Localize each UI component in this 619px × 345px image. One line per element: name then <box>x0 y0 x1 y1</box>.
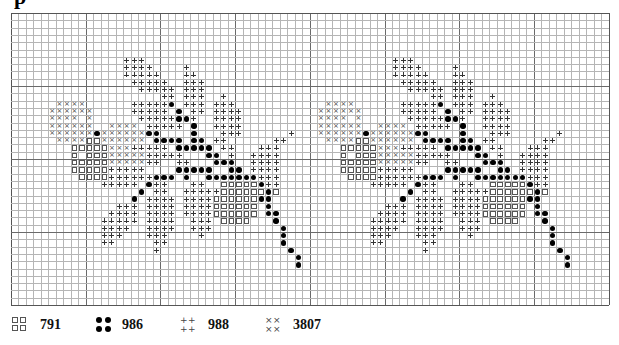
plus-stitch-icon <box>168 93 175 100</box>
plus-stitch-icon <box>183 101 190 108</box>
square-stitch-icon <box>511 217 518 224</box>
plus-stitch-icon <box>101 239 108 246</box>
plus-stitch-icon <box>467 203 474 210</box>
plus-stitch-icon <box>160 196 167 203</box>
plus-stitch-icon <box>228 115 235 122</box>
square-stitch-icon <box>362 137 369 144</box>
grid-line <box>11 305 609 306</box>
dot-stitch-icon <box>444 166 451 173</box>
dot-stitch-icon <box>437 174 444 181</box>
plus-stitch-icon <box>437 115 444 122</box>
plus-stitch-icon <box>138 108 145 115</box>
square-stitch-icon <box>250 203 257 210</box>
plus-stitch-icon <box>422 159 429 166</box>
plus-stitch-icon <box>250 166 257 173</box>
dot-stitch-icon <box>243 174 250 181</box>
plus-stitch-icon <box>190 225 197 232</box>
square-stitch-icon <box>228 217 235 224</box>
plus-stitch-icon <box>541 174 548 181</box>
plus-stitch-icon <box>377 166 384 173</box>
cross-stitch-icon: × <box>399 159 406 166</box>
plus-stitch-icon <box>220 123 227 130</box>
grid-line <box>11 79 609 80</box>
plus-stitch-icon <box>392 174 399 181</box>
square-stitch-icon <box>504 196 511 203</box>
plus-stitch-icon <box>131 181 138 188</box>
plus-stitch-icon <box>160 181 167 188</box>
plus-stitch-icon <box>482 188 489 195</box>
square-stitch-icon <box>355 166 362 173</box>
plus-stitch-icon <box>101 225 108 232</box>
cross-stitch-icon: × <box>78 108 85 115</box>
plus-stitch-icon <box>407 115 414 122</box>
square-stitch-icon <box>71 152 78 159</box>
cross-stitch-icon: × <box>370 137 377 144</box>
plus-stitch-icon <box>497 144 504 151</box>
plus-stitch-icon <box>377 174 384 181</box>
plus-stitch-icon <box>272 174 279 181</box>
plus-stitch-icon <box>272 144 279 151</box>
square-stitch-icon <box>489 217 496 224</box>
plus-stitch-icon <box>205 210 212 217</box>
plus-stitch-icon <box>444 159 451 166</box>
plus-stitch-icon <box>385 210 392 217</box>
square-stitch-icon <box>347 174 354 181</box>
plus-stitch-icon <box>145 217 152 224</box>
dot-stitch-icon <box>549 225 556 232</box>
square-stitch-icon <box>71 159 78 166</box>
square-stitch-icon <box>243 181 250 188</box>
plus-stitch-icon <box>190 181 197 188</box>
square-stitch-icon <box>504 181 511 188</box>
plus-stitch-icon <box>101 217 108 224</box>
plus-stitch-icon <box>467 101 474 108</box>
plus-stitch-icon <box>407 64 414 71</box>
plus-stitch-icon <box>250 152 257 159</box>
square-stitch-icon <box>355 144 362 151</box>
plus-stitch-icon <box>116 217 123 224</box>
square-stitch-icon <box>497 188 504 195</box>
dot-stitch-icon <box>444 137 451 144</box>
square-stitch-icon <box>86 174 93 181</box>
square-stitch-icon <box>489 188 496 195</box>
plus-stitch-icon <box>183 203 190 210</box>
plus-stitch-icon <box>265 152 272 159</box>
dot-stitch-icon <box>265 196 272 203</box>
plus-stitch-icon <box>459 225 466 232</box>
cross-stitch-icon: × <box>347 108 354 115</box>
plus-stitch-icon <box>123 57 130 64</box>
dot-stitch-icon <box>399 196 406 203</box>
dot-stitch-icon <box>444 108 451 115</box>
plus-stitch-icon <box>168 123 175 130</box>
square-stitch-icon <box>258 188 265 195</box>
plus-stitch-icon <box>377 181 384 188</box>
plus-stitch-icon <box>123 217 130 224</box>
plus-stitch-icon <box>265 174 272 181</box>
dot-stitch-icon <box>526 181 533 188</box>
thread-legend: 791 986 ++ ++ 988 ×× ×× 3807 <box>0 314 619 338</box>
plus-stitch-icon <box>422 101 429 108</box>
square-stitch-icon <box>235 203 242 210</box>
square-stitch-icon <box>272 188 279 195</box>
plus-stitch-icon <box>422 247 429 254</box>
dot-stitch-icon <box>504 174 511 181</box>
plus-stitch-icon <box>437 93 444 100</box>
plus-stitch-icon <box>429 203 436 210</box>
plus-stitch-icon <box>422 203 429 210</box>
plus-stitch-icon <box>198 86 205 93</box>
dot-stitch-icon <box>145 130 152 137</box>
plus-stitch-icon <box>228 123 235 130</box>
plus-stitch-icon <box>198 101 205 108</box>
plus-stitch-icon <box>101 181 108 188</box>
square-stitch-icon <box>243 196 250 203</box>
plus-stitch-icon <box>467 196 474 203</box>
plus-stitch-icon <box>272 181 279 188</box>
plus-stitch-icon <box>183 188 190 195</box>
dot-stitch-icon <box>489 159 496 166</box>
plus-stitch-icon <box>497 123 504 130</box>
dot-stitch-icon <box>467 166 474 173</box>
grid-line <box>11 276 609 277</box>
cross-stitch-icon: × <box>78 137 85 144</box>
square-stitch-icon <box>228 203 235 210</box>
plus-stitch-icon <box>541 159 548 166</box>
plus-stitch-icon <box>497 115 504 122</box>
